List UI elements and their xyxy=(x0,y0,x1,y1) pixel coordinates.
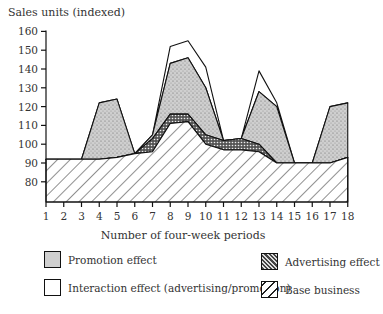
blank-swatch-icon xyxy=(44,279,61,296)
tick-label: 90 xyxy=(25,157,38,169)
legend-label: Promotion effect xyxy=(68,254,157,266)
tick-label: 110 xyxy=(18,119,38,131)
tick-label: 18 xyxy=(341,210,354,222)
tick-label: 130 xyxy=(18,82,38,94)
legend-item-base: Base business xyxy=(261,281,360,298)
tick-label: 10 xyxy=(199,210,212,222)
stipple-swatch-icon xyxy=(44,251,61,268)
tick-label: 150 xyxy=(18,44,38,56)
tick-label: 15 xyxy=(288,210,301,222)
tick-label: 16 xyxy=(306,210,320,222)
legend-item-advertising: Advertising effect xyxy=(261,253,380,270)
legend-item-interaction: Interaction effect (advertising/promotio… xyxy=(44,279,291,296)
tick-label: 11 xyxy=(217,210,230,222)
tick-label: 5 xyxy=(114,210,121,222)
tick-label: 8 xyxy=(167,210,174,222)
legend-item-promotion: Promotion effect xyxy=(44,251,157,268)
legend-label: Interaction effect (advertising/promotio… xyxy=(68,282,291,294)
tick-label: 13 xyxy=(252,210,265,222)
tick-label: 17 xyxy=(323,210,336,222)
tick-label: 6 xyxy=(131,210,138,222)
tick-label: 4 xyxy=(96,210,103,222)
tick-label: 120 xyxy=(18,101,38,113)
x-axis-title: Number of four-week periods xyxy=(101,229,266,242)
tick-label: 140 xyxy=(18,63,38,75)
tick-label: 80 xyxy=(25,176,38,188)
plot-area xyxy=(46,41,348,202)
tick-label: 100 xyxy=(18,138,38,150)
legend-label: Advertising effect xyxy=(285,256,380,268)
y-axis-title: Sales units (indexed) xyxy=(8,6,125,19)
legend-label: Base business xyxy=(285,284,360,296)
tick-label: 3 xyxy=(78,210,85,222)
crosshatch-swatch-icon xyxy=(261,253,278,270)
hatch-swatch-icon xyxy=(261,281,278,298)
tick-label: 2 xyxy=(60,210,67,222)
tick-label: 1 xyxy=(43,210,50,222)
tick-label: 14 xyxy=(270,210,284,222)
tick-label: 160 xyxy=(18,25,38,37)
tick-label: 9 xyxy=(185,210,192,222)
tick-label: 12 xyxy=(235,210,248,222)
tick-label: 7 xyxy=(149,210,156,222)
